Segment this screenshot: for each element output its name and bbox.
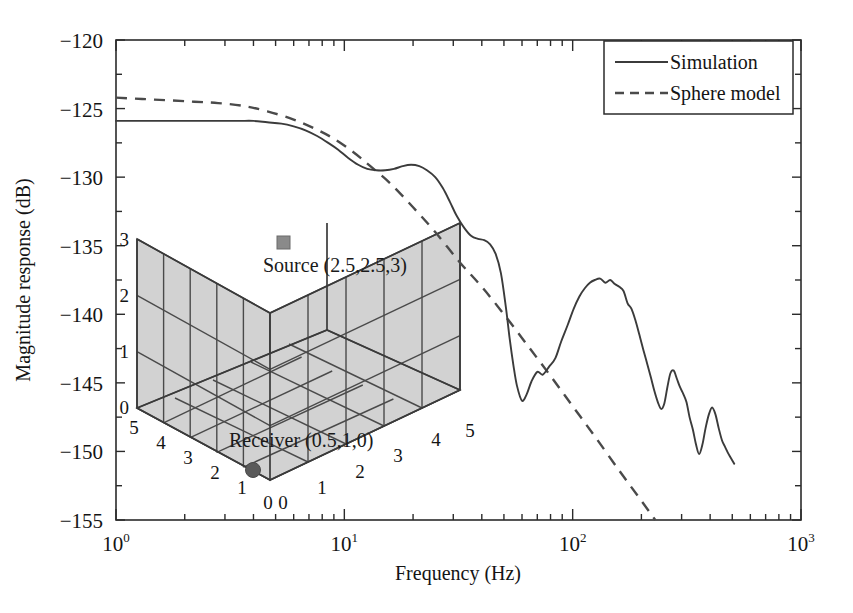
inset-x-label-2: 2 — [355, 461, 365, 482]
receiver-label: Receiver (0.5,1,0) — [229, 429, 373, 452]
inset-x-label-5: 5 — [465, 420, 475, 441]
y-tick-label-4: −140 — [60, 303, 103, 327]
inset-x-label-1: 1 — [317, 477, 327, 498]
y-tick-label-3: −135 — [60, 235, 103, 259]
inset-y-label-1: 4 — [156, 432, 166, 453]
inset-y-label-4: 1 — [237, 477, 247, 498]
legend-label-simulation: Simulation — [670, 51, 758, 73]
inset-y-label-2: 3 — [183, 447, 193, 468]
y-tick-label-2: −130 — [60, 166, 103, 190]
figure-container: −120−125−130−135−140−145−150−155 1001011… — [0, 0, 853, 613]
legend: Simulation Sphere model — [604, 41, 793, 114]
inset-y-label-0: 5 — [129, 417, 139, 438]
y-tick-label-0: −120 — [60, 29, 103, 53]
inset-z-label-2: 1 — [120, 341, 130, 362]
y-tick-label-1: −125 — [60, 98, 103, 122]
source-label: Source (2.5,2.5,3) — [263, 254, 407, 277]
x-axis-title: Frequency (Hz) — [395, 562, 521, 585]
receiver-marker — [246, 463, 261, 478]
source-marker — [277, 236, 290, 249]
inset-y-label-3: 2 — [210, 462, 220, 483]
y-axis-title: Magnitude response (dB) — [12, 178, 35, 381]
inset-z-label-1: 2 — [120, 285, 130, 306]
inset-x-label-4: 4 — [431, 429, 441, 450]
y-tick-label-5: −145 — [60, 372, 103, 396]
magnitude-response-chart: −120−125−130−135−140−145−150−155 1001011… — [0, 0, 853, 613]
y-tick-label-7: −155 — [60, 509, 103, 533]
inset-x-label-3: 3 — [393, 445, 403, 466]
legend-label-sphere-model: Sphere model — [670, 82, 781, 105]
inset-z-label-0: 3 — [120, 229, 130, 250]
y-tick-label-6: −150 — [60, 440, 103, 464]
inset-z-label-3: 0 — [120, 397, 130, 418]
inset-y-label-5: 0 — [263, 492, 273, 513]
inset-x-label-0: 0 — [278, 492, 288, 513]
